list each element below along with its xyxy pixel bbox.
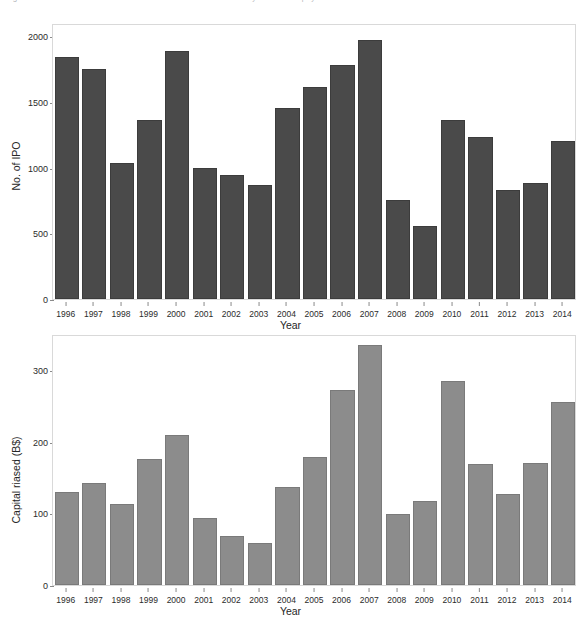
x-tick-label: 2004 <box>277 309 296 319</box>
tick-mark-icon <box>534 588 535 592</box>
x-tick-label: 2005 <box>305 595 324 605</box>
tick-mark-icon <box>369 302 370 306</box>
tick-mark-icon <box>451 302 452 306</box>
chart-ipo-x-tick-1998: 1998 <box>111 302 130 319</box>
tick-mark-icon <box>176 302 177 306</box>
tick-mark-icon <box>176 588 177 592</box>
x-tick-label: 2008 <box>387 595 406 605</box>
bar-2008 <box>386 514 410 585</box>
x-tick-label: 2006 <box>332 309 351 319</box>
bar-2000 <box>165 435 189 585</box>
tick-mark-icon <box>203 302 204 306</box>
x-tick-label: 2009 <box>415 309 434 319</box>
x-tick-label: 2011 <box>470 309 488 319</box>
chart-ipo-x-tick-2011: 2011 <box>470 302 488 319</box>
chart-capital-x-tick-2003: 2003 <box>249 588 268 605</box>
chart-ipo-y-ticks: 0500100015002000 <box>20 24 48 300</box>
x-tick-label: 2013 <box>525 309 544 319</box>
bar-2007 <box>358 40 382 299</box>
x-tick-label: 1997 <box>84 595 103 605</box>
tick-mark-icon <box>93 588 94 592</box>
bar-2011 <box>468 137 492 299</box>
bar-2008 <box>386 200 410 299</box>
x-tick-label: 2003 <box>249 309 268 319</box>
tick-mark-icon <box>507 302 508 306</box>
chart-ipo-x-tick-2009: 2009 <box>415 302 434 319</box>
bar-2003 <box>248 543 272 585</box>
chart-ipo-y-tick-1500: 1500 <box>28 98 48 108</box>
x-tick-label: 1999 <box>139 309 158 319</box>
chart-capital-x-tick-2001: 2001 <box>194 588 213 605</box>
bar-2001 <box>193 518 217 585</box>
tick-mark-icon <box>313 302 314 306</box>
tick-mark-icon <box>258 588 259 592</box>
chart-ipo-x-tick-2013: 2013 <box>525 302 544 319</box>
x-tick-label: 2011 <box>470 595 488 605</box>
chart-ipo-y-tick-1000: 1000 <box>28 164 48 174</box>
chart-capital-y-tick-200: 200 <box>33 438 48 448</box>
chart-capital-x-tick-1997: 1997 <box>84 588 103 605</box>
bar-2002 <box>220 175 244 299</box>
chart-capital-x-tick-2009: 2009 <box>415 588 434 605</box>
tick-mark-icon <box>424 588 425 592</box>
x-tick-label: 2014 <box>553 309 572 319</box>
tick-mark-icon <box>396 588 397 592</box>
chart-capital-x-tick-2007: 2007 <box>360 588 379 605</box>
chart-capital-bars <box>53 336 575 585</box>
chart-ipo-x-tick-2010: 2010 <box>442 302 461 319</box>
x-tick-label: 2001 <box>194 595 213 605</box>
chart-ipo-x-tick-2012: 2012 <box>498 302 517 319</box>
x-tick-label: 2004 <box>277 595 296 605</box>
bar-2014 <box>551 402 575 585</box>
tick-mark-icon <box>231 302 232 306</box>
bar-2002 <box>220 536 244 585</box>
tick-mark-icon <box>369 588 370 592</box>
bar-2007 <box>358 345 382 585</box>
x-tick-label: 2012 <box>498 595 517 605</box>
tick-mark-icon <box>562 302 563 306</box>
chart-ipo-x-tick-2000: 2000 <box>167 302 186 319</box>
chart-capital-x-tick-2008: 2008 <box>387 588 406 605</box>
x-tick-label: 2002 <box>222 595 241 605</box>
bar-2006 <box>330 65 354 299</box>
bar-2011 <box>468 464 492 585</box>
bar-2013 <box>523 463 547 585</box>
bar-1999 <box>137 459 161 585</box>
clipped-caption-center: IPO activity in the U.S. equity markets <box>218 0 344 2</box>
chart-ipo-x-tick-2005: 2005 <box>305 302 324 319</box>
bar-2004 <box>275 108 299 299</box>
x-tick-label: 2006 <box>332 595 351 605</box>
bar-1997 <box>82 69 106 299</box>
chart-capital-x-tick-2004: 2004 <box>277 588 296 605</box>
chart-capital-x-tick-2000: 2000 <box>167 588 186 605</box>
chart-ipo-y-tick-500: 500 <box>33 229 48 239</box>
bar-1998 <box>110 504 134 585</box>
x-tick-label: 2014 <box>553 595 572 605</box>
chart-ipo-plot-area <box>52 24 576 300</box>
tick-mark-icon <box>258 302 259 306</box>
bar-2009 <box>413 501 437 585</box>
bar-1999 <box>137 120 161 299</box>
chart-capital-y-tick-300: 300 <box>33 366 48 376</box>
chart-capital-x-tick-2014: 2014 <box>553 588 572 605</box>
tick-mark-icon <box>203 588 204 592</box>
clipped-caption-strip: Fig 1 IPO activity in the U.S. equity ma… <box>0 0 581 11</box>
figure-page: Fig 1 IPO activity in the U.S. equity ma… <box>0 0 581 634</box>
tick-mark-icon <box>120 588 121 592</box>
bar-2012 <box>496 190 520 299</box>
chart-number-of-ipo: No. of IPO 0500100015002000 199619971998… <box>0 11 581 321</box>
tick-mark-icon <box>93 302 94 306</box>
chart-capital-x-tick-2013: 2013 <box>525 588 544 605</box>
bar-2003 <box>248 185 272 299</box>
x-tick-label: 2008 <box>387 309 406 319</box>
chart-ipo-y-tick-2000: 2000 <box>28 32 48 42</box>
tick-mark-icon <box>534 302 535 306</box>
bar-2004 <box>275 487 299 585</box>
tick-mark-icon <box>286 302 287 306</box>
chart-capital-x-axis-label: Year <box>0 605 581 617</box>
chart-capital-y-tick-0: 0 <box>43 581 48 591</box>
chart-capital-plot-area <box>52 335 576 586</box>
x-tick-label: 1998 <box>111 595 130 605</box>
x-tick-label: 2002 <box>222 309 241 319</box>
tick-mark-icon <box>479 588 480 592</box>
